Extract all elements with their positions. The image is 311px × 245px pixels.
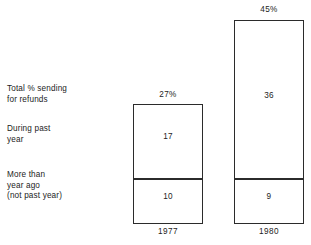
bar-1980: 36 9 [234,20,304,224]
bar-total-label-1980: 45% [234,5,304,14]
bar-group-1977: 27% 17 10 1977 [133,0,203,245]
bar-total-label-1977: 27% [133,90,203,99]
bar-1977: 17 10 [133,104,203,224]
bar-segment-value-1977-during-past-year: 17 [134,132,202,141]
stacked-bar-chart: Total % sending for refunds During past … [0,0,311,245]
row-label-during-past-year: During past year [7,124,51,145]
x-axis-label-1980: 1980 [234,227,304,236]
bar-segment-1977-more-than-year-ago: 10 [134,180,202,223]
row-label-total-sending: Total % sending for refunds [7,84,67,105]
x-axis-label-1977: 1977 [133,227,203,236]
bar-segment-1980-during-past-year: 36 [235,21,303,180]
bar-segment-1977-during-past-year: 17 [134,105,202,180]
bar-segment-value-1977-more-than-year-ago: 10 [134,192,202,201]
bar-segment-value-1980-during-past-year: 36 [235,91,303,100]
bar-group-1980: 45% 36 9 1980 [234,0,304,245]
row-label-more-than-year-ago: More than year ago (not past year) [7,170,62,202]
bar-segment-1980-more-than-year-ago: 9 [235,180,303,223]
bar-segment-value-1980-more-than-year-ago: 9 [235,192,303,201]
